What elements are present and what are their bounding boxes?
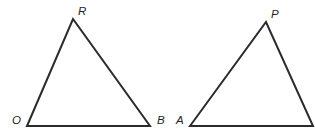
- vertex-label-b: B: [157, 114, 165, 126]
- vertex-label-o: O: [12, 114, 21, 126]
- vertex-label-a: A: [175, 114, 184, 126]
- vertex-label-r: R: [78, 5, 86, 17]
- geometry-figure: O R B A P: [0, 0, 315, 137]
- vertex-label-p: P: [271, 8, 279, 20]
